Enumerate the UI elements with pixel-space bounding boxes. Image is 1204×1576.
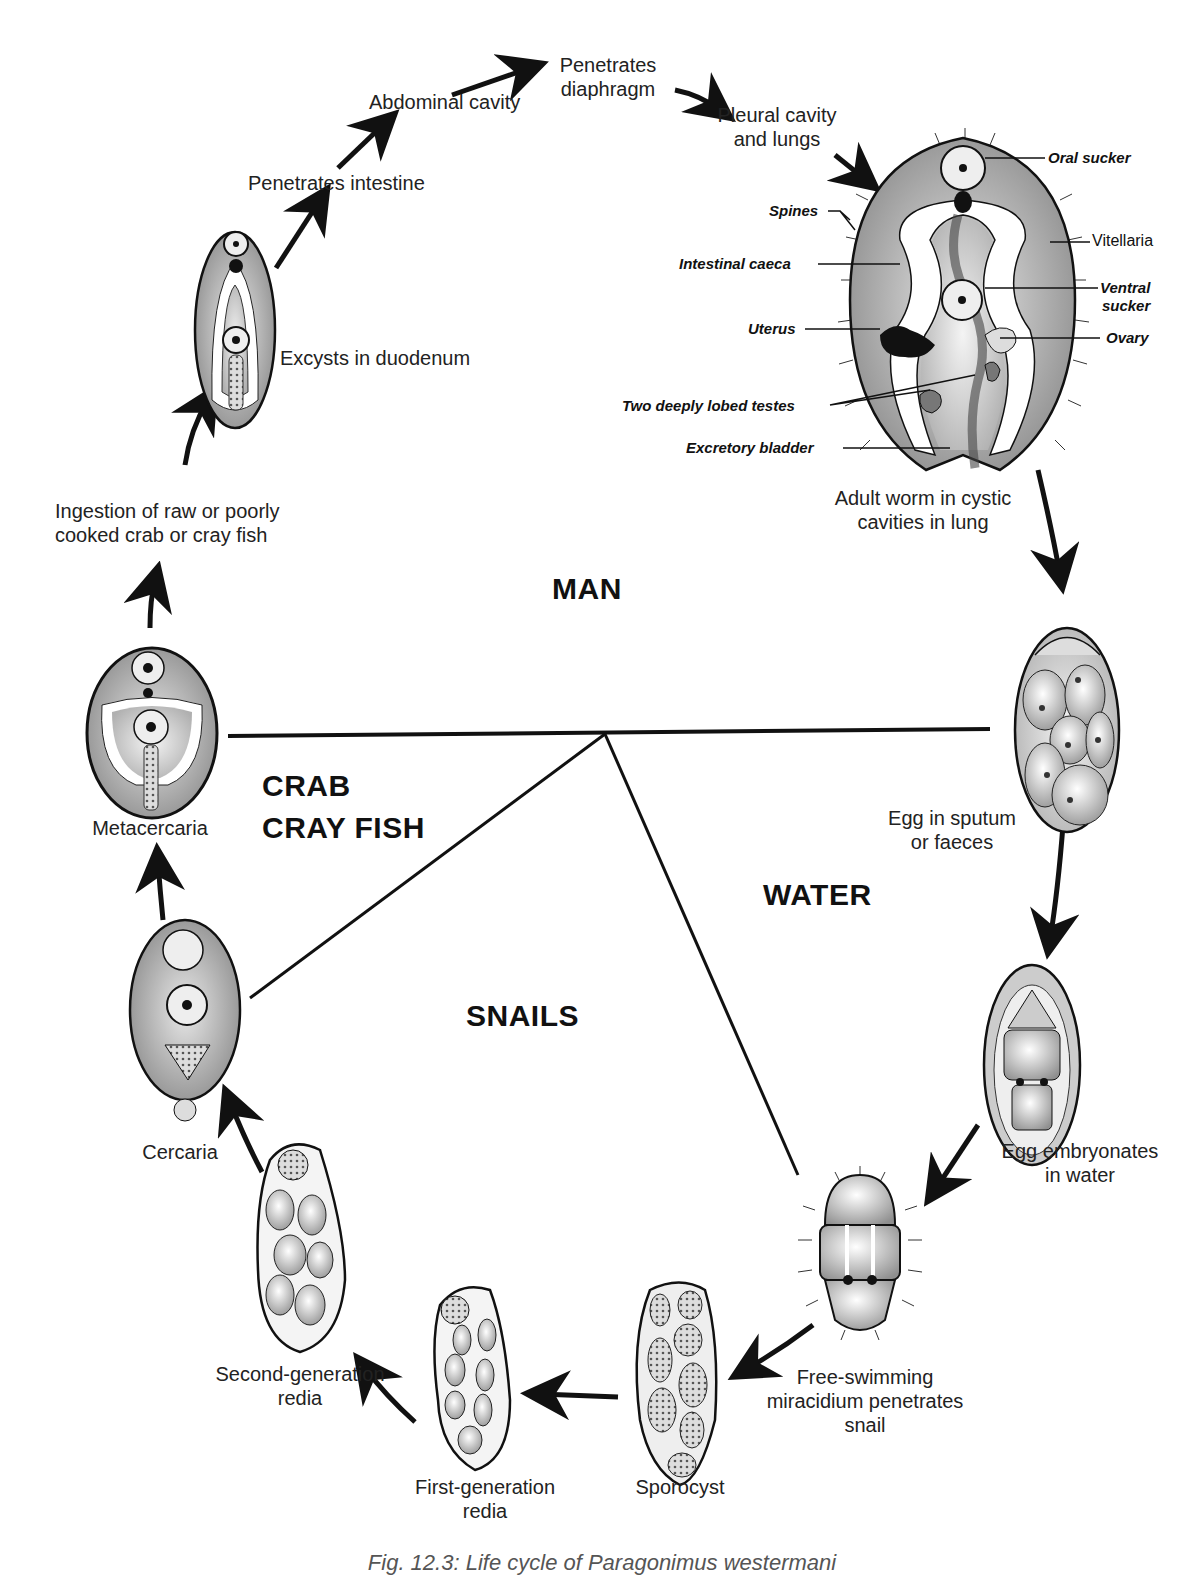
anatomy-label-oral-sucker: Oral sucker	[1048, 149, 1131, 167]
egg-illustration	[1015, 628, 1119, 832]
stage-label-first-redia: First-generation redia	[400, 1475, 570, 1523]
anatomy-label-vitellaria: Vitellaria	[1092, 232, 1153, 250]
stage-label-line: Pleural cavity	[707, 103, 847, 127]
sporocyst-illustration	[637, 1283, 717, 1486]
anatomy-label-spines: Spines	[769, 202, 818, 220]
adult-worm-illustration	[838, 128, 1089, 470]
stage-label-egg: Egg in sputum or faeces	[882, 806, 1022, 854]
stage-label-line: Ingestion of raw or poorly	[55, 499, 280, 523]
stage-label-egg-embryonates: Egg embryonates in water	[985, 1139, 1175, 1187]
figure-caption: Fig. 12.3: Life cycle of Paragonimus wes…	[0, 1550, 1204, 1576]
stage-label-line: diaphragm	[548, 77, 668, 101]
stage-label-cercaria: Cercaria	[125, 1140, 235, 1164]
anatomy-label-ventral-sucker: Ventral sucker	[1100, 279, 1150, 315]
metacercaria-illustration	[87, 648, 217, 818]
anatomy-label-excretory-bladder: Excretory bladder	[686, 439, 814, 457]
stage-label-abdominal-cavity: Abdominal cavity	[369, 90, 520, 114]
stage-label-line: miracidium penetrates	[760, 1389, 970, 1413]
miracidium-illustration	[798, 1166, 922, 1340]
stage-label-pleural-cavity: Pleural cavity and lungs	[707, 103, 847, 151]
stage-label-line: snail	[760, 1413, 970, 1437]
stage-label-line: First-generation	[400, 1475, 570, 1499]
first-generation-redia-illustration	[434, 1287, 510, 1470]
stage-label-line: cooked crab or cray fish	[55, 523, 280, 547]
anatomy-label-uterus: Uterus	[748, 320, 796, 338]
stage-label-penetrates-diaphragm: Penetrates diaphragm	[548, 53, 668, 101]
stage-label-line: in water	[985, 1163, 1175, 1187]
anatomy-label-line: Ventral	[1100, 279, 1150, 297]
stage-label-line: Penetrates	[548, 53, 668, 77]
zone-label-crayfish: CRAY FISH	[262, 811, 425, 845]
stage-label-second-redia: Second-generation redia	[200, 1362, 400, 1410]
stage-label-line: Second-generation	[200, 1362, 400, 1386]
stage-label-line: redia	[200, 1386, 400, 1410]
stage-label-ingestion: Ingestion of raw or poorly cooked crab o…	[55, 499, 280, 547]
stage-label-sporocyst: Sporocyst	[620, 1475, 740, 1499]
stage-label-line: Egg in sputum	[882, 806, 1022, 830]
second-generation-redia-illustration	[258, 1144, 346, 1352]
zone-label-water: WATER	[763, 878, 872, 912]
stage-label-excysts: Excysts in duodenum	[280, 346, 470, 370]
stage-label-penetrates-intestine: Penetrates intestine	[248, 171, 425, 195]
stage-label-line: redia	[400, 1499, 570, 1523]
cercaria-illustration	[130, 920, 240, 1121]
anatomy-label-line: sucker	[1100, 297, 1150, 315]
excysted-worm-illustration	[195, 232, 275, 428]
stage-label-line: and lungs	[707, 127, 847, 151]
zone-label-snails: SNAILS	[466, 999, 579, 1033]
stage-label-line: cavities in lung	[818, 510, 1028, 534]
stage-label-metacercaria: Metacercaria	[75, 816, 225, 840]
stage-label-adult-worm: Adult worm in cystic cavities in lung	[818, 486, 1028, 534]
stage-label-line: Egg embryonates	[985, 1139, 1175, 1163]
stage-label-miracidium: Free-swimming miracidium penetrates snai…	[760, 1365, 970, 1437]
zone-label-man: MAN	[552, 572, 622, 606]
stage-label-line: or faeces	[882, 830, 1022, 854]
stage-label-line: Free-swimming	[760, 1365, 970, 1389]
embryonated-egg-illustration	[984, 965, 1080, 1165]
zone-label-crab: CRAB	[262, 769, 351, 803]
anatomy-label-ovary: Ovary	[1106, 329, 1149, 347]
anatomy-label-testes: Two deeply lobed testes	[622, 397, 795, 415]
stage-label-line: Adult worm in cystic	[818, 486, 1028, 510]
anatomy-label-intestinal-caeca: Intestinal caeca	[679, 255, 791, 273]
